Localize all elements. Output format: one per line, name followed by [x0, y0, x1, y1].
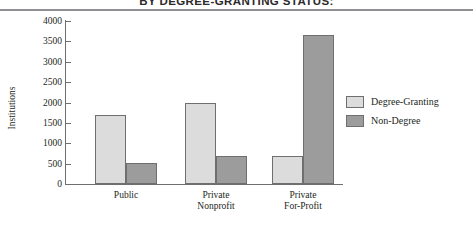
bar-non-degree-private-for-profit: [303, 35, 334, 184]
x-axis-label: Private For-Profit: [263, 190, 343, 212]
y-tick: [66, 143, 71, 144]
y-tick: [66, 82, 71, 83]
legend-label-degree-granting: Degree-Granting: [371, 96, 439, 107]
y-tick: [66, 62, 71, 63]
y-tick-label: 3500: [43, 37, 62, 47]
bar-degree-granting-private-nonprofit: [185, 103, 216, 185]
chart-figure: BY DEGREE-GRANTING STATUS: Institutions …: [0, 0, 473, 226]
bar-degree-granting-private-for-profit: [272, 156, 303, 184]
bar-non-degree-public: [126, 163, 157, 184]
bar-degree-granting-public: [95, 115, 126, 184]
legend-item-degree-granting: Degree-Granting: [346, 92, 439, 111]
y-tick: [66, 21, 71, 22]
y-tick: [66, 164, 71, 165]
x-axis-line: [65, 184, 343, 185]
x-axis-label: Public: [86, 190, 166, 201]
y-tick-label: 2500: [43, 78, 62, 88]
chart-legend: Degree-Granting Non-Degree: [346, 92, 439, 130]
y-tick-label: 4000: [43, 17, 62, 27]
y-tick: [66, 123, 71, 124]
x-axis-label: Private Nonprofit: [176, 190, 256, 212]
legend-label-non-degree: Non-Degree: [371, 115, 420, 126]
y-tick-label: 500: [48, 160, 62, 170]
y-tick: [66, 184, 71, 185]
legend-item-non-degree: Non-Degree: [346, 111, 439, 130]
y-tick: [66, 103, 71, 104]
y-tick: [66, 41, 71, 42]
y-tick-label: 1000: [43, 139, 62, 149]
y-tick-label: 2000: [43, 99, 62, 109]
legend-swatch-degree-granting: [346, 96, 364, 108]
bar-non-degree-private-nonprofit: [216, 156, 247, 184]
y-tick-label: 3000: [43, 58, 62, 68]
y-tick-label: 1500: [43, 119, 62, 129]
y-tick-label: 0: [57, 180, 62, 190]
y-axis-title: Institutions: [7, 63, 17, 153]
legend-swatch-non-degree: [346, 115, 364, 127]
